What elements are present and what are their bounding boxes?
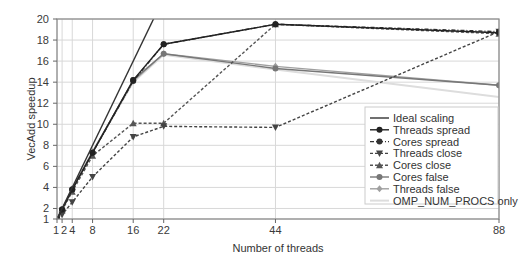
legend-label: Ideal scaling xyxy=(393,112,454,124)
legend-label: Cores false xyxy=(393,171,449,183)
legend-label: Threads close xyxy=(393,147,462,159)
legend-label: Cores spread xyxy=(393,136,459,148)
legend: Ideal scalingThreads spreadCores spreadT… xyxy=(365,107,518,207)
y-tick-label: 12 xyxy=(37,97,49,109)
circle-marker-icon xyxy=(161,41,167,47)
y-tick-label: 2 xyxy=(43,202,49,214)
x-tick-label: 22 xyxy=(158,224,170,236)
x-tick-label: 2 xyxy=(61,224,67,236)
x-tick-label: 16 xyxy=(127,224,139,236)
x-tick-label: 8 xyxy=(90,224,96,236)
y-tick-label: 16 xyxy=(37,55,49,67)
circle-marker-icon xyxy=(377,127,383,133)
y-axis-ticks: 12468101214161820 xyxy=(37,13,57,225)
x-tick-label: 4 xyxy=(69,224,75,236)
y-axis-label: VecAdd speedup xyxy=(25,77,37,160)
triangle-down-marker-icon xyxy=(69,199,76,206)
y-tick-label: 20 xyxy=(37,13,49,25)
legend-label: Threads spread xyxy=(393,124,470,136)
circle-marker-icon xyxy=(130,77,136,83)
series-ideal-scaling xyxy=(57,0,164,219)
circle-marker-icon xyxy=(161,51,167,57)
legend-label: Threads false xyxy=(393,183,460,195)
x-tick-label: 1 xyxy=(53,224,59,236)
speedup-chart: 12468101214161820 124816224488 Number of… xyxy=(0,0,526,263)
y-tick-label: 8 xyxy=(43,139,49,151)
triangle-down-marker-icon xyxy=(272,124,279,131)
legend-item: OMP_NUM_PROCS only xyxy=(370,195,518,207)
x-axis-ticks: 124816224488 xyxy=(53,219,505,236)
circle-marker-icon xyxy=(377,139,383,145)
y-tick-label: 4 xyxy=(43,181,49,193)
legend-label: Cores close xyxy=(393,159,451,171)
x-axis-label: Number of threads xyxy=(232,242,324,254)
x-tick-label: 44 xyxy=(269,224,281,236)
circle-marker-icon xyxy=(272,65,278,71)
y-tick-label: 1 xyxy=(43,213,49,225)
y-tick-label: 6 xyxy=(43,160,49,172)
y-tick-label: 18 xyxy=(37,34,49,46)
y-tick-label: 10 xyxy=(37,118,49,130)
y-tick-label: 14 xyxy=(37,76,49,88)
circle-marker-icon xyxy=(272,21,278,27)
circle-marker-icon xyxy=(377,174,383,180)
legend-label: OMP_NUM_PROCS only xyxy=(393,195,518,207)
triangle-down-marker-icon xyxy=(130,134,137,141)
x-tick-label: 88 xyxy=(493,224,505,236)
